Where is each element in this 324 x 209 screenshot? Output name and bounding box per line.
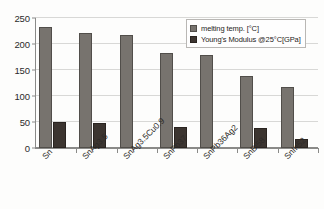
bar-melting-temp [160, 53, 173, 148]
bar-melting-temp [240, 76, 253, 148]
x-axis-tick-mark [237, 148, 238, 153]
x-axis-labels: SnSnAg3.5SnAg3.5Cu0.9SnPb37SnPb36Ag2SnBi… [0, 148, 324, 209]
chart-legend: melting temp. [°C] Young's Modulus @25°C… [186, 19, 306, 48]
y-axis-tick-label: 50 [20, 117, 30, 128]
y-axis-tick-label: 200 [14, 39, 30, 50]
legend-item-youngs-modulus: Young's Modulus @25°C[GPa] [190, 34, 301, 44]
x-axis-tick-mark [157, 148, 158, 153]
x-axis-tick-mark [318, 148, 319, 153]
bar-melting-temp [120, 35, 133, 148]
y-axis-tick-label: 150 [14, 65, 30, 76]
legend-item-label: Young's Modulus @25°C[GPa] [201, 35, 301, 44]
legend-item-label: melting temp. [°C] [201, 24, 259, 33]
y-axis-tick-label: 250 [14, 13, 30, 24]
legend-item-melting-temp: melting temp. [°C] [190, 23, 301, 33]
y-axis-tick-label: 100 [14, 91, 30, 102]
x-axis-tick-mark [197, 148, 198, 153]
x-axis-tick-mark [117, 148, 118, 153]
bar-group [36, 18, 76, 148]
bar-melting-temp [39, 27, 52, 148]
bar-melting-temp [281, 87, 294, 148]
legend-swatch-icon [190, 36, 197, 43]
x-axis-tick-mark [278, 148, 279, 153]
bar-chart: 050100150200250 SnSnAg3.5SnAg3.5Cu0.9SnP… [0, 0, 324, 209]
x-axis-tick-mark [76, 148, 77, 153]
bar-group [76, 18, 116, 148]
bar-melting-temp [200, 55, 213, 148]
bar-youngs-modulus [53, 122, 66, 148]
x-axis-category-label: Sn [40, 147, 54, 161]
legend-swatch-icon [190, 25, 197, 32]
bar-melting-temp [79, 33, 92, 148]
